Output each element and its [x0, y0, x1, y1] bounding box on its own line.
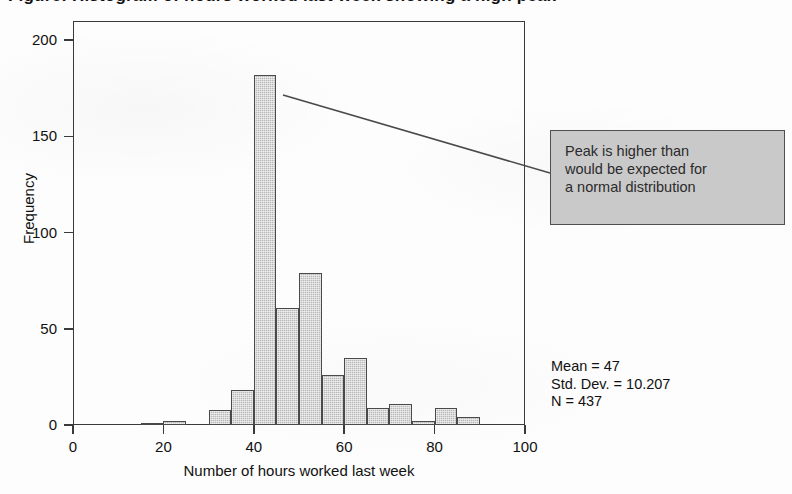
histogram-bar: [231, 390, 254, 425]
x-axis-tick: [72, 425, 74, 434]
x-axis-tick: [434, 425, 436, 434]
figure-title-text: Figure: Histogram of hours worked last w…: [0, 0, 792, 6]
histogram-bar: [457, 417, 480, 425]
stat-n: N = 437: [551, 393, 670, 411]
figure-title-clipped: Figure: Histogram of hours worked last w…: [0, 0, 792, 8]
stat-mean: Mean = 47: [551, 358, 670, 376]
histogram-bar: [254, 75, 277, 425]
y-axis-label: Frequency: [20, 119, 37, 299]
histogram-bar: [367, 408, 390, 425]
x-axis-tick-label: 0: [43, 438, 103, 455]
histogram-bar: [209, 410, 232, 425]
y-axis-tick: [64, 39, 73, 41]
peak-callout-line: would be expected for: [565, 160, 775, 178]
y-axis-tick-label: 0: [0, 416, 57, 433]
y-axis-tick-label: 200: [0, 31, 57, 48]
histogram-bar: [163, 421, 186, 425]
y-axis-tick: [64, 424, 73, 426]
histogram-bar: [141, 423, 164, 425]
x-axis-tick: [163, 425, 165, 434]
y-axis-tick-label: 50: [0, 320, 57, 337]
histogram-bar: [276, 308, 299, 425]
histogram-figure: Figure: Histogram of hours worked last w…: [0, 0, 792, 494]
x-axis-label: Number of hours worked last week: [73, 462, 525, 479]
x-axis-tick: [253, 425, 255, 434]
x-axis-tick-label: 40: [224, 438, 284, 455]
histogram-bar: [322, 375, 345, 425]
y-axis-tick: [64, 232, 73, 234]
stat-stddev: Std. Dev. = 10.207: [551, 376, 670, 394]
statistics-block: Mean = 47 Std. Dev. = 10.207 N = 437: [551, 358, 670, 411]
peak-callout-text: Peak is higher thanwould be expected for…: [565, 142, 775, 196]
peak-callout-line: a normal distribution: [565, 178, 775, 196]
peak-callout-box: Peak is higher thanwould be expected for…: [550, 130, 785, 225]
x-axis-tick-label: 100: [495, 438, 555, 455]
histogram-bar: [412, 421, 435, 425]
histogram-bars: [73, 21, 525, 425]
y-axis-tick: [64, 136, 73, 138]
x-axis-tick-label: 20: [133, 438, 193, 455]
x-axis-tick: [524, 425, 526, 434]
y-axis-tick: [64, 328, 73, 330]
x-axis-tick: [343, 425, 345, 434]
x-axis-tick-label: 80: [405, 438, 465, 455]
x-axis-tick-label: 60: [314, 438, 374, 455]
histogram-bar: [299, 273, 322, 425]
histogram-bar: [435, 408, 458, 425]
peak-callout-line: Peak is higher than: [565, 142, 775, 160]
histogram-bar: [389, 404, 412, 425]
histogram-bar: [344, 358, 367, 425]
